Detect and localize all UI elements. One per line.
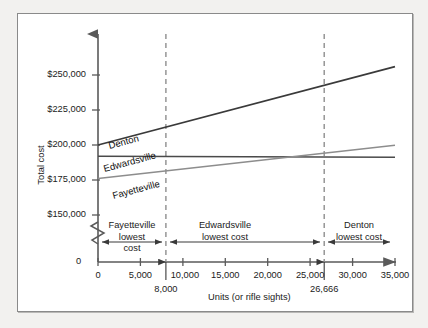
region-label-edwardsville: Edwardsville lowest cost: [185, 220, 265, 243]
crossover-label-26666: 26,666: [301, 284, 347, 294]
x-tick-label-10000: 10,000: [162, 270, 208, 280]
region-label-denton-line1: Denton: [344, 220, 374, 230]
region-label-fayetteville-line3: cost: [123, 243, 140, 253]
y-tick-label-200000: $200,000: [24, 139, 86, 149]
figure-container: $250,000 $225,000 $200,000 $175,000 $150…: [0, 0, 428, 328]
x-tick-label-0: 0: [75, 270, 121, 280]
x-tick-label-15000: 15,000: [202, 270, 248, 280]
x-tick-label-25000: 25,000: [287, 270, 333, 280]
region-label-fayetteville-line2: lowest: [119, 232, 145, 242]
y-tick-label-225000: $225,000: [24, 104, 86, 114]
x-tick-label-35000: 35,000: [372, 270, 418, 280]
x-tick-label-30000: 30,000: [330, 270, 376, 280]
series-line-denton: [98, 67, 395, 145]
region-label-denton: Denton lowest cost: [328, 220, 390, 243]
crossover-label-8000: 8,000: [144, 284, 188, 294]
region-label-denton-line2: lowest cost: [336, 232, 382, 242]
region-label-edwardsville-line1: Edwardsville: [199, 220, 251, 230]
x-tick-label-20000: 20,000: [245, 270, 291, 280]
region-label-fayetteville-line1: Fayetteville: [108, 220, 155, 230]
y-tick-label-175000: $175,000: [24, 174, 86, 184]
y-tick-label-250000: $250,000: [24, 69, 86, 79]
y-axis-title: Total cost: [36, 129, 46, 201]
chart-svg: [18, 14, 414, 313]
chart-frame: $250,000 $225,000 $200,000 $175,000 $150…: [17, 13, 413, 312]
x-axis-title: Units (or rifle sights): [208, 292, 291, 302]
x-tick-label-5000: 5,000: [117, 270, 163, 280]
y-tick-label-150000: $150,000: [24, 209, 86, 219]
region-label-edwardsville-line2: lowest cost: [202, 232, 248, 242]
y-origin-label: 0: [76, 256, 81, 266]
region-label-fayetteville: Fayetteville lowest cost: [100, 220, 164, 255]
